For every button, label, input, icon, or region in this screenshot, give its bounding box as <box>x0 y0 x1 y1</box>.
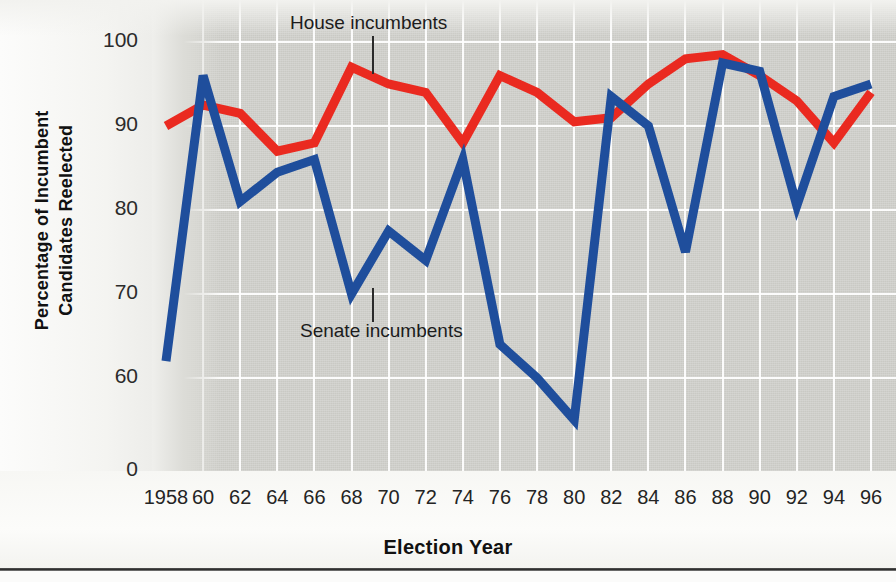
y-tick-0: 0 <box>82 457 138 481</box>
y-tick-100: 100 <box>82 28 138 52</box>
x-tick-60: 60 <box>192 486 214 509</box>
line-senate-incumbents <box>166 63 871 420</box>
x-tick-90: 90 <box>749 486 771 509</box>
x-tick-72: 72 <box>415 486 437 509</box>
x-tick-66: 66 <box>303 486 325 509</box>
x-tick-80: 80 <box>563 486 585 509</box>
x-tick-92: 92 <box>786 486 808 509</box>
x-tick-96: 96 <box>860 486 882 509</box>
y-tick-80: 80 <box>82 196 138 220</box>
y-tick-70: 70 <box>82 280 138 304</box>
x-tick-86: 86 <box>674 486 696 509</box>
x-axis-title: Election Year <box>0 536 896 559</box>
annotation-leader-line-senate <box>372 288 374 322</box>
x-tick-64: 64 <box>266 486 288 509</box>
y-tick-90: 90 <box>82 112 138 136</box>
bottom-divider-rule <box>0 568 896 571</box>
x-tick-78: 78 <box>526 486 548 509</box>
x-tick-1958: 1958 <box>144 486 189 509</box>
y-axis-title-line-1: Percentage of Incumbent <box>30 70 54 370</box>
x-tick-68: 68 <box>340 486 362 509</box>
x-tick-88: 88 <box>711 486 733 509</box>
x-tick-84: 84 <box>637 486 659 509</box>
y-axis-title-line-2: Candidates Reelected <box>54 70 78 370</box>
x-tick-82: 82 <box>600 486 622 509</box>
annotation-senate-incumbents: Senate incumbents <box>300 320 463 342</box>
x-tick-74: 74 <box>452 486 474 509</box>
x-tick-94: 94 <box>823 486 845 509</box>
y-axis-title: Percentage of Incumbent Candidates Reele… <box>30 70 79 370</box>
chart-figure: 100908070600 195860626466687072747678808… <box>0 0 896 582</box>
annotation-leader-line-house <box>372 36 374 74</box>
x-tick-76: 76 <box>489 486 511 509</box>
x-tick-62: 62 <box>229 486 251 509</box>
annotation-house-incumbents: House incumbents <box>290 12 447 34</box>
y-tick-60: 60 <box>82 364 138 388</box>
x-tick-70: 70 <box>378 486 400 509</box>
